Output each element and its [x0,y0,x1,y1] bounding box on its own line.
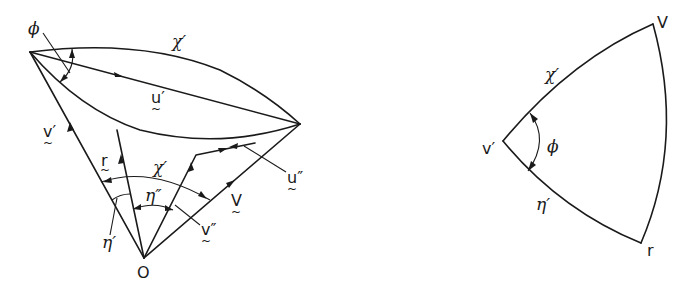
label-eta-prime: η′ [102,232,116,252]
vector-V [144,124,300,258]
label-eta-double-prime: η″ [145,185,162,205]
label-v-prime-right: v′ [482,139,495,158]
tilde-r: ~ [100,163,110,177]
left-vector-diagram: ϕ χ′ u′ ~ v′ ~ r ~ χ′ η″ η′ v″ ~ V ~ u″ … [28,18,303,282]
label-phi: ϕ [28,18,40,38]
label-V-right: V [657,13,668,32]
arrowhead-phi-right-top [530,113,538,123]
tilde-u-double-prime: ~ [287,182,297,196]
label-chi-prime-right: χ′ [544,64,559,84]
side-chi-prime [503,24,653,141]
label-chi-prime-top: χ′ [171,31,186,51]
arrowhead-u-double-prime [198,191,207,199]
leader-phi [43,33,70,73]
leader-v-double-prime [175,205,200,225]
arrowhead-phi-right-bottom [528,161,536,171]
label-phi-right: ϕ [547,136,559,156]
arrowhead-eta-double-prime-r [165,205,173,211]
arrowhead-v-double-prime-1 [188,162,194,172]
tilde-u-prime: ~ [151,102,161,116]
label-chi-prime-inner: χ′ [152,157,167,177]
label-origin: O [137,263,150,282]
arc-eta-prime [112,194,130,200]
chord-u-prime [30,52,300,124]
arrowhead-chi-inner [103,177,112,183]
arrowhead-u-prime [114,72,124,77]
line-u-double-prime [244,146,286,172]
arrowhead-eta-double-prime-l [133,204,141,210]
arrowhead-phi-top [69,49,75,58]
vector-geometry-diagram: ϕ χ′ u′ ~ v′ ~ r ~ χ′ η″ η′ v″ ~ V ~ u″ … [0,0,697,296]
tilde-v-double-prime: ~ [201,234,211,248]
vector-v-prime [30,52,144,258]
vector-r [117,130,144,258]
arrowhead-v-double-prime-2 [218,148,228,153]
side-V-to-r [641,24,666,243]
label-eta-prime-right: η′ [536,194,550,214]
tilde-v-prime: ~ [43,136,53,150]
side-eta-prime [503,141,641,243]
right-spherical-triangle: V χ′ v′ ϕ η′ r [482,13,668,260]
tilde-V: ~ [231,205,241,219]
label-r-right: r [647,241,654,260]
